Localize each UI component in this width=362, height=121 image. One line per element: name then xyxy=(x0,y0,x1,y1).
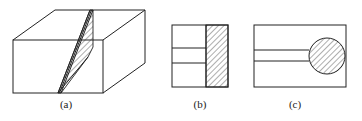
figure-a xyxy=(13,10,145,93)
diagram-canvas: (a) (b) (c) xyxy=(0,0,362,121)
hatched-strip xyxy=(206,25,228,87)
block-side-face xyxy=(103,10,145,93)
hatched-circle xyxy=(309,38,345,74)
figure-b-label: (b) xyxy=(194,98,207,111)
figure-a-label: (a) xyxy=(60,98,73,111)
figure-c xyxy=(254,25,346,87)
block-top-face xyxy=(13,10,145,40)
figure-b xyxy=(172,25,228,87)
figure-c-label: (c) xyxy=(289,98,302,111)
